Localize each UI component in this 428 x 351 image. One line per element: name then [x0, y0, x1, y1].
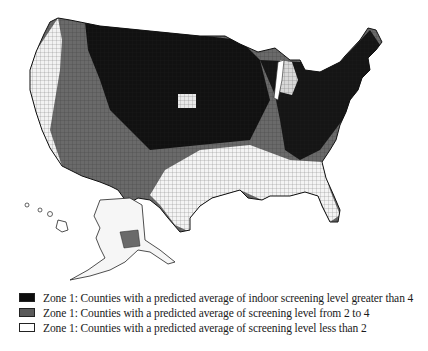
alaska: [70, 198, 175, 280]
legend-item-zone-mid: Zone 1: Counties with a predicted averag…: [19, 305, 419, 320]
swatch-gray: [19, 308, 35, 317]
swatch-black: [19, 293, 35, 302]
legend-label: Zone 1: Counties with a predicted averag…: [43, 307, 370, 319]
legend-label: Zone 1: Counties with a predicted averag…: [43, 322, 367, 334]
hawaii: [25, 203, 68, 232]
legend-item-zone-high: Zone 1: Counties with a predicted averag…: [19, 290, 419, 305]
swatch-white: [19, 323, 35, 332]
legend-label: Zone 1: Counties with a predicted averag…: [43, 292, 413, 304]
map-legend: Zone 1: Counties with a predicted averag…: [19, 290, 419, 335]
us-county-zone-map: [0, 0, 428, 285]
legend-item-zone-low: Zone 1: Counties with a predicted averag…: [19, 320, 419, 335]
contiguous-us: [0, 0, 428, 285]
